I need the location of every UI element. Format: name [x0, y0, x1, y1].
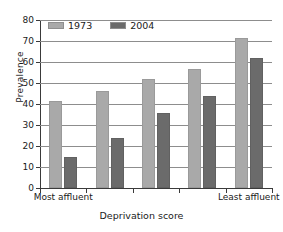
y-tick-label: 40 [23, 100, 34, 109]
bar-1973-group-3 [142, 79, 155, 188]
bar-chart: Prevalence 01020304050607080 1973 2004 M… [0, 0, 283, 232]
legend: 1973 2004 [48, 21, 154, 31]
y-tick-label: 30 [23, 121, 34, 130]
y-tick-mark [36, 104, 40, 105]
y-tick-mark [36, 146, 40, 147]
bar-2004-group-3 [157, 113, 170, 188]
y-tick-mark [36, 83, 40, 84]
bar-1973-group-4 [188, 69, 201, 188]
legend-item-2004: 2004 [110, 21, 154, 31]
x-tick-mark [179, 188, 180, 193]
legend-swatch-1973 [48, 22, 64, 29]
y-tick-label: 50 [23, 79, 34, 88]
bar-1973-group-2 [96, 91, 109, 188]
bar-2004-group-1 [64, 157, 77, 189]
y-tick-label: 60 [23, 58, 34, 67]
y-tick-mark [36, 167, 40, 168]
x-category-label: Least affluent [218, 193, 280, 202]
y-tick-mark [36, 20, 40, 21]
legend-label-1973: 1973 [68, 21, 92, 31]
legend-label-2004: 2004 [130, 21, 154, 31]
bar-1973-group-1 [49, 101, 62, 188]
plot-area: 01020304050607080 [40, 20, 272, 188]
x-axis-title: Deprivation score [0, 211, 283, 221]
legend-swatch-2004 [110, 22, 126, 29]
bar-1973-group-5 [235, 38, 248, 188]
x-axis-line [40, 188, 273, 189]
y-tick-label: 80 [23, 16, 34, 25]
y-tick-mark [36, 125, 40, 126]
legend-item-1973: 1973 [48, 21, 92, 31]
y-tick-label: 10 [23, 163, 34, 172]
y-tick-label: 20 [23, 142, 34, 151]
y-tick-mark [36, 41, 40, 42]
x-category-label: Most affluent [34, 193, 93, 202]
bar-2004-group-5 [250, 58, 263, 188]
x-tick-mark [133, 188, 134, 193]
bar-2004-group-2 [111, 138, 124, 188]
bar-2004-group-4 [203, 96, 216, 188]
y-tick-label: 70 [23, 37, 34, 46]
y-tick-mark [36, 62, 40, 63]
